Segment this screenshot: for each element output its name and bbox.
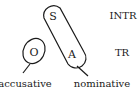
nominative-pointer-line xyxy=(77,66,88,76)
role-o-label: O xyxy=(29,46,38,59)
row-label-transitive: TR xyxy=(115,47,130,58)
role-a-label: A xyxy=(67,48,77,61)
accusative-pointer-line xyxy=(23,64,30,73)
role-s-label: S xyxy=(49,10,57,23)
case-label-accusative: accusative xyxy=(0,78,52,89)
alignment-diagram: S A O INTR TR accusative nominative xyxy=(0,0,140,91)
case-label-nominative: nominative xyxy=(74,78,130,89)
row-label-intransitive: INTR xyxy=(110,10,137,21)
